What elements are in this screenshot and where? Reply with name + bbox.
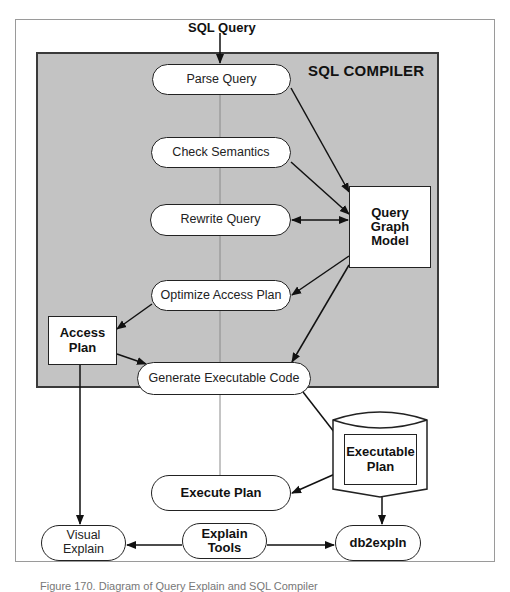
qgm-to-optimize-arrow xyxy=(292,256,349,295)
step-check-semantics: Check Semantics xyxy=(151,137,291,168)
step-rewrite-query: Rewrite Query xyxy=(150,204,291,236)
execute-plan-label: Execute Plan xyxy=(181,486,262,500)
qgm-to-generate-arrow xyxy=(292,265,349,362)
executable-plan-line-1: Executable xyxy=(346,445,415,459)
visual-explain-node: Visual Explain xyxy=(41,525,126,561)
access-plan-line-1: Access xyxy=(60,326,106,340)
access-plan-box: Access Plan xyxy=(48,316,117,365)
visual-explain-line-1: Visual xyxy=(63,529,104,543)
qgm-line-2: Graph xyxy=(371,220,409,234)
db2expln-node: db2expln xyxy=(335,525,421,561)
step-label: Check Semantics xyxy=(172,146,269,160)
executable-plan-line-2: Plan xyxy=(346,460,415,474)
execute-plan-node: Execute Plan xyxy=(151,475,291,511)
explain-tools-line-2: Tools xyxy=(201,541,247,555)
sql-compiler-title: SQL COMPILER xyxy=(308,62,424,79)
access-plan-line-2: Plan xyxy=(60,341,106,355)
qgm-line-1: Query xyxy=(371,206,409,220)
step-label: Optimize Access Plan xyxy=(161,289,282,303)
semantics-to-qgm-arrow xyxy=(291,162,349,214)
step-label: Parse Query xyxy=(186,73,256,87)
explain-tools-line-1: Explain xyxy=(201,527,247,541)
explain-tools-node: Explain Tools xyxy=(182,523,267,559)
sql-query-input-label: SQL Query xyxy=(188,20,256,35)
step-label: Generate Executable Code xyxy=(149,372,300,386)
step-parse-query: Parse Query xyxy=(152,64,291,95)
visual-explain-line-2: Explain xyxy=(63,543,104,557)
db2expln-label: db2expln xyxy=(349,536,406,550)
step-generate-executable-code: Generate Executable Code xyxy=(137,362,311,395)
qgm-line-3: Model xyxy=(371,234,409,248)
query-graph-model-box: Query Graph Model xyxy=(349,186,431,268)
optimize-to-access-plan-arrow xyxy=(117,304,152,329)
step-optimize-access-plan: Optimize Access Plan xyxy=(151,280,291,311)
access-plan-to-generate-arrow xyxy=(117,354,146,364)
parse-to-qgm-arrow xyxy=(291,88,349,192)
executable-plan-box: Executable Plan xyxy=(344,434,417,485)
step-label: Rewrite Query xyxy=(181,213,261,227)
figure-caption: Figure 170. Diagram of Query Explain and… xyxy=(40,580,318,592)
